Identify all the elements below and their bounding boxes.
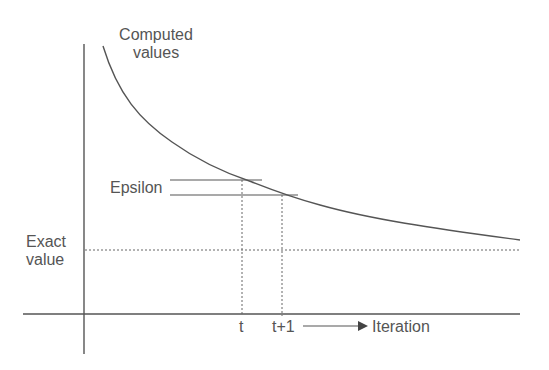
arrow-right-icon [358, 321, 368, 331]
computed-label-line2: values [115, 44, 197, 62]
diagram-graphics [0, 0, 549, 370]
computed-values-label: Computed values [115, 26, 197, 62]
exact-label-line1: Exact [26, 233, 66, 251]
convergence-diagram: Computed values Epsilon Exact value t t+… [0, 0, 549, 370]
x-axis-label: Iteration [372, 318, 430, 336]
computed-label-line1: Computed [115, 26, 197, 44]
tick-label-t: t [239, 318, 243, 336]
exact-label-line2: value [26, 251, 66, 269]
exact-value-label: Exact value [26, 233, 66, 269]
tick-label-t-plus-1: t+1 [272, 318, 295, 336]
computed-values-curve [103, 46, 520, 240]
epsilon-label: Epsilon [110, 179, 162, 197]
